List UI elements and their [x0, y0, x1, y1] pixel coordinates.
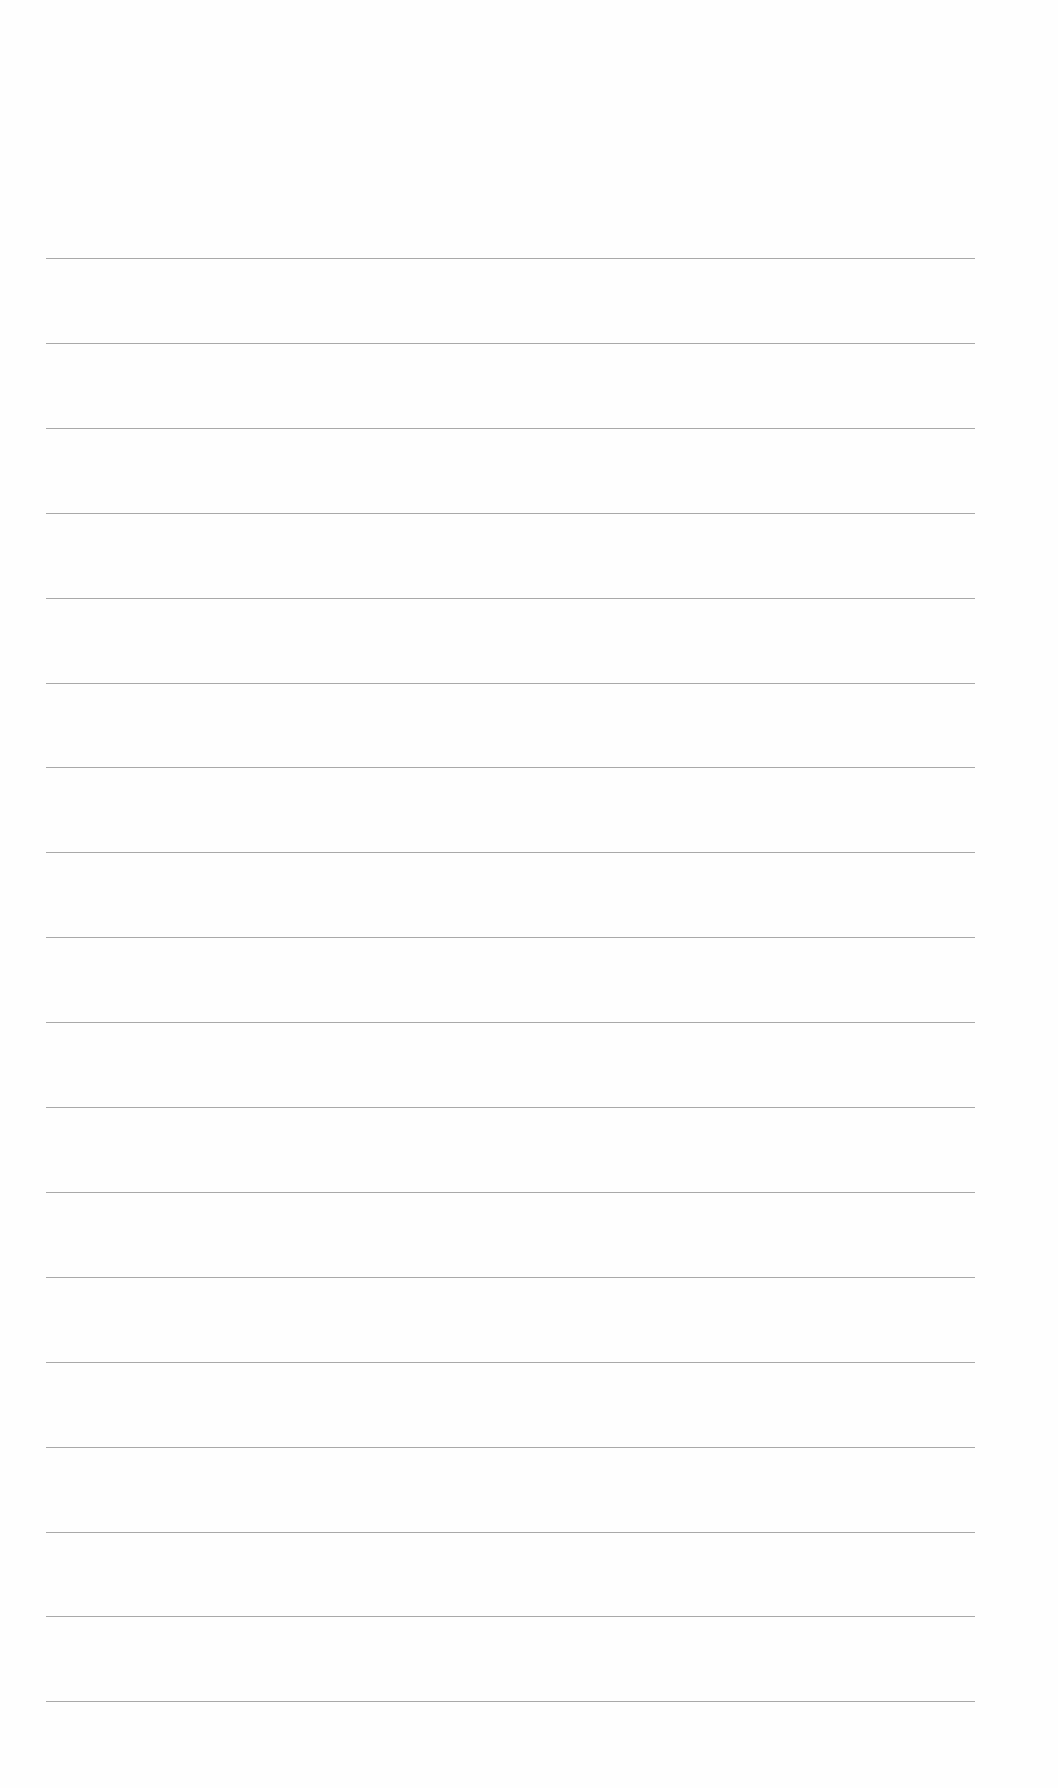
- ruled-line: [46, 598, 975, 599]
- ruled-line: [46, 1107, 975, 1108]
- ruled-line: [46, 1701, 975, 1702]
- ruled-line: [46, 852, 975, 853]
- ruled-line: [46, 1362, 975, 1363]
- ruled-line: [46, 343, 975, 344]
- ruled-line: [46, 1277, 975, 1278]
- ruled-line: [46, 1447, 975, 1448]
- ruled-line: [46, 767, 975, 768]
- ruled-line: [46, 937, 975, 938]
- ruled-line: [46, 1192, 975, 1193]
- ruled-line: [46, 1532, 975, 1533]
- ruled-line: [46, 1022, 975, 1023]
- ruled-line: [46, 428, 975, 429]
- ruled-line: [46, 1616, 975, 1617]
- ruled-line: [46, 513, 975, 514]
- ruled-line: [46, 258, 975, 259]
- ruled-line: [46, 683, 975, 684]
- ruled-page: [0, 0, 1058, 1788]
